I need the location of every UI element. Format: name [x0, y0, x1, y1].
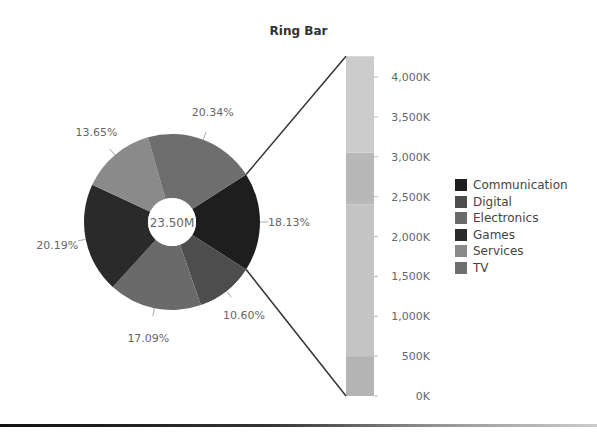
slice-label: 17.09% — [127, 332, 169, 345]
legend-item-digital[interactable]: Digital — [455, 194, 568, 211]
y-tick-label: 0K — [416, 390, 431, 403]
center-total-label: 23.50M — [150, 216, 195, 230]
bar-segment[interactable] — [346, 56, 374, 152]
legend-label: Digital — [473, 195, 512, 209]
legend-item-services[interactable]: Services — [455, 243, 568, 260]
bar-segment[interactable] — [346, 356, 374, 396]
bar-segment[interactable] — [346, 153, 374, 205]
y-tick-label: 1,000K — [391, 310, 430, 323]
y-tick-label: 1,500K — [391, 270, 430, 283]
legend-label: Services — [473, 244, 524, 258]
slice-label: 20.19% — [36, 239, 78, 252]
y-tick-label: 2,000K — [391, 231, 430, 244]
legend-label: TV — [473, 261, 489, 275]
y-tick-label: 2,500K — [391, 191, 430, 204]
legend-swatch — [455, 245, 467, 257]
legend-swatch — [455, 229, 467, 241]
legend-swatch — [455, 212, 467, 224]
y-axis: 0K500K1,000K1,500K2,000K2,500K3,000K3,50… — [374, 71, 431, 403]
legend: CommunicationDigitalElectronicsGamesServ… — [455, 177, 568, 276]
slice-label: 10.60% — [223, 309, 265, 322]
donut: 18.13%10.60%17.09%20.19%13.65%20.34%23.5… — [36, 106, 310, 345]
legend-item-communication[interactable]: Communication — [455, 177, 568, 194]
legend-swatch — [455, 262, 467, 274]
y-tick-label: 3,500K — [391, 111, 430, 124]
y-tick-label: 4,000K — [391, 71, 430, 84]
legend-item-games[interactable]: Games — [455, 227, 568, 244]
connector-line-top — [246, 56, 346, 174]
legend-item-electronics[interactable]: Electronics — [455, 210, 568, 227]
connector-line-bottom — [246, 269, 346, 396]
legend-label: Games — [473, 228, 515, 242]
legend-label: Communication — [473, 178, 568, 192]
legend-swatch — [455, 196, 467, 208]
slice-label: 18.13% — [268, 216, 310, 229]
stacked-bar — [346, 56, 374, 396]
slice-label: 20.34% — [192, 106, 234, 119]
y-tick-label: 3,000K — [391, 151, 430, 164]
legend-label: Electronics — [473, 211, 538, 225]
y-tick-label: 500K — [402, 350, 431, 363]
legend-swatch — [455, 179, 467, 191]
bottom-divider — [0, 424, 597, 427]
bar-segment[interactable] — [346, 205, 374, 357]
legend-item-tv[interactable]: TV — [455, 260, 568, 277]
slice-label: 13.65% — [76, 126, 118, 139]
